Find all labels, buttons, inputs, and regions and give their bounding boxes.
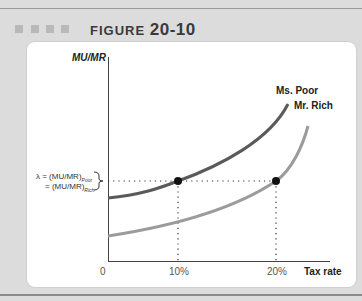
ms-poor-curve [108, 104, 288, 198]
mr-rich-label: Mr. Rich [294, 100, 333, 111]
lambda-line-2: = (MU/MR)Rich [45, 182, 94, 193]
rich-sub: Rich [84, 187, 94, 193]
y-axis-label: MU/MR [72, 52, 106, 63]
brace-icon [94, 172, 103, 190]
x-axis-label: Tax rate [304, 266, 342, 277]
lambda-prefix: λ = (MU/MR) [36, 172, 82, 181]
poor-equilibrium-point [174, 177, 182, 185]
ms-poor-label: Ms. Poor [276, 85, 318, 96]
tick-10-label: 10% [169, 266, 189, 277]
chart-plot [0, 0, 362, 301]
tick-20-label: 20% [267, 266, 287, 277]
lambda-line-1: λ = (MU/MR)Poor [36, 172, 92, 183]
origin-label: 0 [100, 266, 106, 277]
rich-equilibrium-point [272, 177, 280, 185]
rich-prefix: = (MU/MR) [45, 182, 84, 191]
